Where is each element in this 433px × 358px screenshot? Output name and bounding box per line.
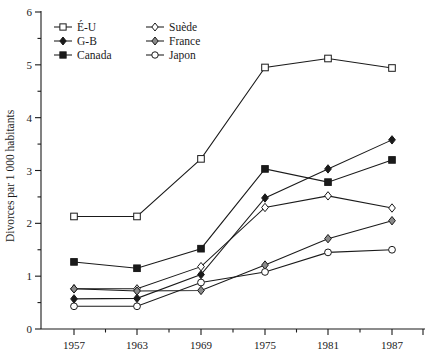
datapoint-Canada-1969 [198,245,205,252]
x-tick-label-1975: 1975 [254,339,277,351]
divorce-rate-line-chart: 0123456 195719631969197519811987 É-UG-BC… [0,0,433,358]
datapoint-France-1975 [262,261,269,269]
legend-marker-Japon [152,52,158,58]
legend-item-G-B[interactable]: G-B [54,35,97,47]
series-É-U [71,55,396,220]
datapoint-G-B-1981 [325,165,332,173]
legend-item-Suède[interactable]: Suède [146,21,197,33]
datapoint-France-1957 [71,285,78,293]
datapoint-Canada-1987 [389,157,396,164]
y-tick-label-3: 3 [27,165,33,177]
x-tick-label-1957: 1957 [63,339,86,351]
x-tick-label-1969: 1969 [190,339,213,351]
x-tick-label-1987: 1987 [381,339,404,351]
legend-label-France: France [169,35,200,47]
datapoint-É-U-1975 [262,64,269,71]
y-tick-label-5: 5 [27,59,33,71]
y-tick-label-4: 4 [27,112,33,124]
datapoint-Japon-1987 [389,246,396,253]
legend-marker-Canada [60,52,66,58]
datapoint-Canada-1963 [134,265,141,272]
legend-item-É-U[interactable]: É-U [54,20,97,33]
x-tick-label-1981: 1981 [317,339,339,351]
y-axis-title: Divorces par 1 000 habitants [4,109,17,242]
datapoint-É-U-1963 [134,213,141,220]
series-line-Suède [74,196,392,289]
legend-item-Canada[interactable]: Canada [54,49,111,61]
datapoint-Suède-1987 [389,204,396,212]
legend-label-Canada: Canada [77,49,111,61]
datapoint-Japon-1963 [134,303,141,310]
datapoint-France-1969 [198,286,205,294]
legend-label-É-U: É-U [77,20,97,33]
legend-item-France[interactable]: France [146,35,200,47]
y-tick-label-1: 1 [27,270,33,282]
datapoint-Canada-1975 [262,166,269,173]
datapoint-Japon-1975 [262,269,269,276]
series-layer [71,55,396,309]
x-axis: 195719631969197519811987 [41,329,425,351]
chart-legend: É-UG-BCanadaSuèdeFranceJapon [54,20,200,62]
datapoint-Suède-1975 [262,203,269,211]
datapoint-France-1981 [325,234,332,242]
y-tick-label-0: 0 [27,323,33,335]
series-line-France [74,221,392,291]
datapoint-É-U-1969 [198,156,205,163]
legend-label-Japon: Japon [169,49,196,62]
datapoint-É-U-1957 [71,213,78,220]
datapoint-Canada-1957 [71,259,78,266]
datapoint-Canada-1981 [325,179,332,186]
x-tick-label-1963: 1963 [126,339,149,351]
datapoint-Japon-1957 [71,303,78,310]
series-Canada [71,157,396,272]
datapoint-France-1987 [389,216,396,224]
legend-label-Suède: Suède [169,21,197,33]
datapoint-Suède-1981 [325,192,332,200]
legend-label-G-B: G-B [77,35,97,47]
datapoint-É-U-1981 [325,55,332,62]
chart-figure: 0123456 195719631969197519811987 É-UG-BC… [0,0,433,358]
series-line-G-B [74,140,392,299]
y-tick-label-6: 6 [27,6,33,18]
legend-item-Japon[interactable]: Japon [146,49,196,62]
datapoint-Japon-1981 [325,249,332,256]
datapoint-Japon-1969 [198,279,205,286]
y-axis: 0123456 [27,6,42,335]
datapoint-G-B-1987 [389,136,396,144]
legend-marker-Suède [152,23,158,31]
series-line-É-U [74,58,392,216]
series-France [71,216,396,295]
datapoint-G-B-1957 [71,295,78,303]
legend-marker-France [152,37,158,45]
datapoint-Suède-1969 [198,262,205,270]
y-tick-label-2: 2 [27,217,33,229]
datapoint-É-U-1987 [389,65,396,72]
legend-marker-É-U [60,24,66,30]
legend-marker-G-B [60,37,66,45]
